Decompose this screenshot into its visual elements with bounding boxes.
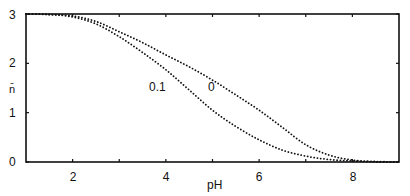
- y-tick-label-0: 0: [9, 156, 16, 168]
- y-tick-label-1: 1: [9, 107, 16, 119]
- curve-label-0.1: 0.1: [149, 81, 166, 93]
- x-tick-label-8: 8: [350, 171, 357, 183]
- y-tick-label-3: 3: [9, 9, 16, 21]
- x-tick-label-2: 2: [70, 171, 77, 183]
- curve-label-0: 0: [208, 81, 215, 93]
- x-axis-label: pH: [207, 179, 222, 191]
- chart-plot: [0, 0, 410, 196]
- y-axis-label: n̄: [9, 84, 15, 95]
- y-tick-label-2: 2: [9, 57, 16, 69]
- x-tick-label-6: 6: [256, 171, 263, 183]
- x-tick-label-4: 4: [163, 171, 170, 183]
